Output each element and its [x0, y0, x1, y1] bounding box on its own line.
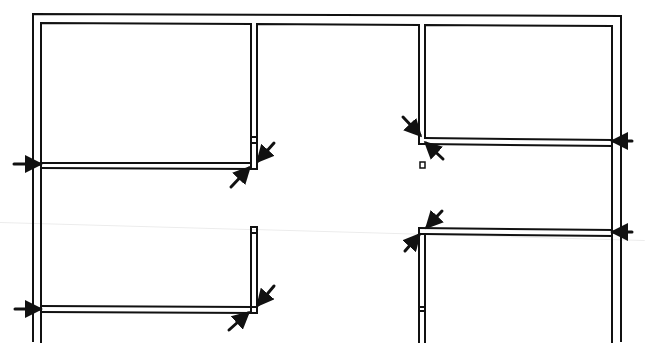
left-partition-lower-a	[41, 306, 251, 307]
right-partition-lower-b	[425, 234, 612, 236]
corridor-column-marker	[420, 162, 425, 168]
top-right-room-wall	[425, 25, 612, 342]
right-partition-lower-a	[419, 228, 612, 230]
arrow-diag-upper-right-b-icon	[426, 143, 443, 159]
right-partition-upper-b	[425, 144, 612, 146]
dimension-arrows	[14, 117, 632, 330]
outer-wall	[33, 14, 621, 342]
column-markers	[420, 162, 425, 168]
top-left-room-wall	[41, 23, 251, 342]
room-top-right	[425, 25, 612, 138]
rooms	[41, 23, 612, 163]
outer-wall-line	[33, 14, 621, 342]
left-partition-lower-b	[41, 312, 257, 313]
room-top-left	[41, 23, 251, 163]
arrow-diag-lower-left-b-icon	[229, 313, 248, 330]
arrow-diag-lower-right-b-icon	[405, 235, 419, 251]
arrow-diag-upper-right-a-icon	[403, 117, 420, 135]
left-partition-lower-stub-outer	[251, 227, 257, 313]
arrow-diag-upper-left-b-icon	[231, 168, 249, 187]
arrow-diag-lower-left-a-icon	[258, 286, 274, 305]
floor-plan-diagram	[0, 0, 645, 352]
right-partition-upper-a	[425, 138, 612, 140]
arrow-diag-upper-left-a-icon	[258, 143, 274, 161]
corridor-top-wall	[257, 24, 419, 163]
interior-walls	[41, 23, 612, 342]
arrow-diag-lower-right-a-icon	[427, 211, 442, 227]
